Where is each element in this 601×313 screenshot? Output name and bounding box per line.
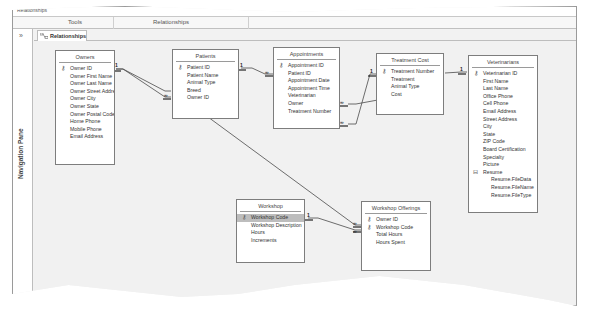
field[interactable]: Breed (173, 87, 238, 95)
field-treatment-number[interactable]: ⚷Treatment Number (377, 68, 443, 76)
cardinality-one: 1 (460, 66, 463, 72)
primary-key-icon: ⚷ (367, 216, 371, 224)
field-sub[interactable]: Resume.FileName (469, 184, 537, 192)
field[interactable]: Board Certification (469, 146, 537, 154)
ribbon-group-relationships: Relationships (153, 19, 189, 25)
field-workshop-code[interactable]: ⚷Workshop Code (237, 214, 304, 222)
ribbon-title-strip: Relationships (13, 7, 576, 17)
field[interactable]: Owner State (56, 103, 114, 111)
field[interactable]: Animal Type (377, 83, 443, 91)
table-workshop[interactable]: Workshop ⚷Workshop Code Workshop Descrip… (236, 199, 305, 263)
primary-key-icon: ⚷ (367, 224, 371, 232)
cardinality-many: ∞ (265, 69, 269, 75)
primary-key-icon: ⚷ (474, 70, 478, 78)
table-treatment-cost[interactable]: Treatment Cost ⚷Treatment Number Treatme… (376, 53, 444, 115)
field[interactable]: Hours (237, 229, 304, 237)
table-owners[interactable]: Owners ⚷Owner ID Owner First Name Owner … (55, 50, 115, 165)
field[interactable]: Mobile Phone (56, 126, 114, 134)
table-veterinarians[interactable]: Veterinarians ⚷Veterinarian ID First Nam… (468, 55, 538, 213)
field-sub[interactable]: Resume.FileType (469, 192, 537, 200)
cardinality-one: 1 (307, 212, 310, 218)
field[interactable]: Treatment Number (274, 108, 339, 116)
cardinality-one: 1 (240, 62, 243, 68)
field[interactable]: Patient ID (274, 70, 339, 78)
field[interactable]: First Name (469, 78, 537, 86)
table-patients[interactable]: Patients ⚷Patient ID Patient Name Animal… (172, 49, 239, 119)
field-owner-id[interactable]: ⚷Owner ID (56, 65, 114, 73)
field[interactable]: Hours Spent (362, 239, 430, 247)
table-workshop-offerings[interactable]: Workshop Offerings ⚷Owner ID ⚷Workshop C… (361, 201, 431, 271)
primary-key-icon: ⚷ (279, 62, 283, 70)
field[interactable]: Patient Name (173, 72, 238, 80)
field[interactable]: Owner (274, 100, 339, 108)
field[interactable]: ZIP Code (469, 138, 537, 146)
field[interactable]: Owner Last Name (56, 80, 114, 88)
table-title: Owners (59, 51, 111, 63)
tab-label: Relationships (50, 33, 86, 39)
table-title: Workshop Offerings (365, 202, 427, 214)
field[interactable]: Treatment (377, 76, 443, 84)
expand-nav-pane-icon[interactable]: » (19, 32, 23, 39)
field[interactable]: Specialty (469, 154, 537, 162)
table-title: Veterinarians (472, 56, 534, 68)
ribbon-divider (248, 17, 249, 29)
cardinality-many: ∞ (164, 92, 168, 98)
field[interactable]: Cell Phone (469, 100, 537, 108)
table-title: Treatment Cost (380, 54, 440, 66)
cardinality-many: ∞ (353, 228, 357, 234)
ribbon-context-label: Relationships (17, 7, 47, 13)
field[interactable]: Total Hours (362, 231, 430, 239)
table-title: Workshop (240, 200, 301, 212)
cardinality-many: ∞ (353, 220, 357, 226)
field-resume[interactable]: ⊟Resume (469, 169, 537, 177)
field[interactable]: Appointment Time (274, 85, 339, 93)
field[interactable]: State (469, 131, 537, 139)
primary-key-icon: ⚷ (61, 65, 65, 73)
field[interactable]: Last Name (469, 85, 537, 93)
primary-key-icon: ⚷ (242, 214, 246, 222)
field-veterinarian-id[interactable]: ⚷Veterinarian ID (469, 70, 537, 78)
field[interactable]: Picture (469, 161, 537, 169)
primary-key-icon: ⚷ (178, 64, 182, 72)
field[interactable]: Animal Type (173, 79, 238, 87)
field-owner-id[interactable]: ⚷Owner ID (362, 216, 430, 224)
field-patient-id[interactable]: ⚷Patient ID (173, 64, 238, 72)
table-title: Appointments (277, 48, 336, 60)
field[interactable]: Owner Postal Code (56, 111, 114, 119)
field[interactable]: Office Phone (469, 93, 537, 101)
field[interactable]: Email Address (469, 108, 537, 116)
navigation-pane[interactable]: » Navigation Pane (13, 29, 33, 307)
cardinality-many: ∞ (340, 119, 344, 125)
primary-key-icon: ⚷ (382, 68, 386, 76)
document-tab-bar: Relationships (34, 29, 576, 41)
field[interactable]: Workshop Description (237, 222, 304, 230)
table-title: Patients (176, 50, 235, 62)
field[interactable]: Veterinarian (274, 92, 339, 100)
collapse-icon[interactable]: ⊟ (473, 169, 478, 177)
ribbon-group-tools: Tools (68, 19, 82, 25)
field[interactable]: Email Address (56, 133, 114, 141)
field[interactable]: Increments (237, 237, 304, 245)
field[interactable]: Owner ID (173, 94, 238, 102)
field[interactable]: Appointment Date (274, 77, 339, 85)
field[interactable]: City (469, 123, 537, 131)
table-appointments[interactable]: Appointments ⚷Appointment ID Patient ID … (273, 47, 340, 129)
field[interactable]: Owner Street Address (56, 88, 114, 96)
field-sub[interactable]: Resume.FileData (469, 176, 537, 184)
field[interactable]: Cost (377, 91, 443, 99)
field[interactable]: Owner First Name (56, 73, 114, 81)
field-workshop-code[interactable]: ⚷Workshop Code (362, 224, 430, 232)
cardinality-many: ∞ (340, 99, 344, 105)
field[interactable]: Street Address (469, 116, 537, 124)
cardinality-one: 1 (115, 62, 118, 68)
field-appointment-id[interactable]: ⚷Appointment ID (274, 62, 339, 70)
ribbon-groups: Tools Relationships (13, 17, 576, 29)
field[interactable]: Owner City (56, 95, 114, 103)
navigation-pane-label[interactable]: Navigation Pane (17, 128, 24, 179)
cardinality-one: 1 (370, 68, 373, 74)
ribbon-divider (113, 17, 114, 29)
field[interactable]: Home Phone (56, 118, 114, 126)
relationships-icon (40, 33, 48, 39)
